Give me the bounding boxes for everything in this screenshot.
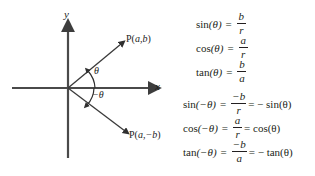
- angle-label-negative-theta: −θ: [92, 89, 104, 100]
- equation-tan-negative-theta-tail: = − tan(θ): [249, 146, 293, 158]
- equation-sin-theta-numerator: b: [238, 11, 246, 23]
- equation-cos-theta-equals: =: [227, 42, 233, 54]
- equation-cos-negative-theta-fraction: a r: [233, 115, 242, 140]
- point-upper-suffix: ): [147, 33, 150, 44]
- equation-tan-theta-argument: (θ): [209, 66, 222, 78]
- equation-cos-negative-theta-argument: (−θ): [198, 122, 218, 134]
- point-lower-y: −b: [145, 129, 157, 140]
- equation-cos-negative-theta-tail: = cos(θ): [244, 122, 280, 134]
- equation-cos-theta: cos(θ) = a r: [183, 36, 315, 60]
- equation-cos-theta-fraction: a r: [239, 35, 248, 60]
- x-axis-label: x: [155, 80, 160, 92]
- equation-cos-negative-theta: cos(−θ) = a r = cos(θ): [183, 116, 315, 140]
- figure-page: y x θ −θ P(a,b) P(a,−b) sin(θ) = b r cos…: [0, 0, 315, 176]
- equations-panel: sin(θ) = b r cos(θ) = a r tan(θ): [183, 0, 315, 176]
- equation-group-basic: sin(θ) = b r cos(θ) = a r tan(θ): [183, 12, 315, 84]
- equation-sin-negative-theta-argument: (−θ): [196, 98, 216, 110]
- equation-sin-negative-theta: sin(−θ) = −b r = − sin(θ): [183, 92, 315, 116]
- equation-tan-theta-denominator: a: [238, 72, 246, 84]
- equation-group-negative: sin(−θ) = −b r = − sin(θ) cos(−θ) = a r …: [183, 92, 315, 164]
- point-lower-suffix: ): [157, 129, 160, 140]
- equation-tan-theta: tan(θ) = b a: [183, 60, 315, 84]
- equation-cos-theta-argument: (θ): [211, 42, 224, 54]
- coordinate-diagram: y x θ −θ P(a,b) P(a,−b): [0, 0, 175, 176]
- equation-tan-negative-theta-argument: (−θ): [196, 146, 216, 158]
- equation-tan-theta-fraction: b a: [237, 59, 246, 84]
- equation-cos-negative-theta-numerator: a: [234, 115, 242, 127]
- equation-tan-negative-theta: tan(−θ) = −b a = − tan(θ): [183, 140, 315, 164]
- equation-sin-negative-theta-fraction: −b r: [231, 91, 246, 116]
- point-label-lower: P(a,−b): [129, 129, 161, 140]
- equation-tan-theta-numerator: b: [238, 59, 246, 71]
- y-axis-label: y: [64, 8, 69, 20]
- equation-sin-theta-function: sin: [196, 18, 209, 30]
- angle-label-theta: θ: [94, 65, 99, 76]
- equation-tan-negative-theta-numerator: −b: [232, 139, 247, 151]
- equation-sin-theta-argument: (θ): [209, 18, 222, 30]
- equation-cos-theta-function: cos: [196, 42, 211, 54]
- equation-sin-negative-theta-numerator: −b: [231, 91, 246, 103]
- equation-sin-theta: sin(θ) = b r: [183, 12, 315, 36]
- equation-cos-negative-theta-equals: =: [222, 122, 228, 134]
- equation-tan-negative-theta-denominator: a: [236, 152, 244, 164]
- equation-tan-theta-equals: =: [226, 66, 232, 78]
- point-lower-prefix: P(: [129, 129, 138, 140]
- point-upper-prefix: P(: [126, 33, 135, 44]
- equation-sin-negative-theta-equals: =: [220, 98, 226, 110]
- equation-cos-negative-theta-function: cos: [183, 122, 198, 134]
- equation-tan-theta-function: tan: [196, 66, 209, 78]
- equation-sin-theta-fraction: b r: [237, 11, 246, 36]
- equation-sin-theta-equals: =: [226, 18, 232, 30]
- point-label-upper: P(a,b): [126, 33, 151, 44]
- equation-tan-negative-theta-fraction: −b a: [232, 139, 247, 164]
- equation-tan-negative-theta-function: tan: [183, 146, 196, 158]
- equation-sin-negative-theta-function: sin: [183, 98, 196, 110]
- equation-tan-negative-theta-equals: =: [221, 146, 227, 158]
- equation-cos-theta-numerator: a: [239, 35, 247, 47]
- equation-sin-negative-theta-tail: = − sin(θ): [248, 98, 291, 110]
- diagram-svg: [0, 0, 175, 176]
